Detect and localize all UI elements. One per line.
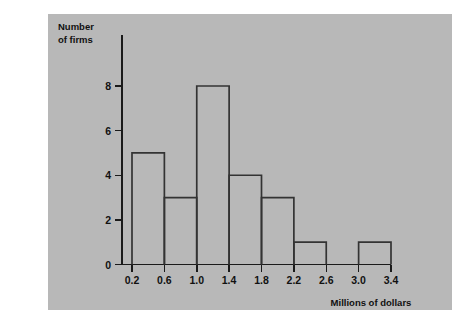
y-axis-title-line1: Number xyxy=(58,21,94,32)
histogram-chart: 0 2 4 6 8 0.2 0.6 1.0 1.4 1.8 2.2 2.6 3.… xyxy=(48,14,452,310)
x-tick-label-2-2: 2.2 xyxy=(287,274,302,286)
x-tick-label-3-0: 3.0 xyxy=(351,274,366,286)
x-tick-label-0-2: 0.2 xyxy=(125,274,140,286)
x-tick-label-1-0: 1.0 xyxy=(189,274,204,286)
y-tick-label-4: 4 xyxy=(105,169,111,181)
figure-root: 0 2 4 6 8 0.2 0.6 1.0 1.4 1.8 2.2 2.6 3.… xyxy=(0,0,463,328)
x-tick-label-3-4: 3.4 xyxy=(384,274,399,286)
x-tick-label-2-6: 2.6 xyxy=(319,274,334,286)
histogram-bar xyxy=(164,198,196,265)
y-tick-label-2: 2 xyxy=(105,214,111,226)
histogram-bar xyxy=(262,198,294,265)
y-tick-label-0: 0 xyxy=(105,259,111,271)
x-tick-label-1-4: 1.4 xyxy=(222,274,237,286)
histogram-bar xyxy=(197,86,229,265)
x-axis-title: Millions of dollars xyxy=(331,297,412,308)
histogram-bar xyxy=(359,242,391,264)
chart-panel: 0 2 4 6 8 0.2 0.6 1.0 1.4 1.8 2.2 2.6 3.… xyxy=(48,14,452,310)
histogram-bar xyxy=(229,175,261,264)
y-tick-label-6: 6 xyxy=(105,125,111,137)
x-tick-label-1-8: 1.8 xyxy=(254,274,269,286)
histogram-bar xyxy=(294,242,326,264)
y-axis-title-line2: of firms xyxy=(58,34,93,45)
histogram-bar xyxy=(132,153,164,265)
histogram-bars xyxy=(132,86,391,265)
x-tick-label-0-6: 0.6 xyxy=(157,274,172,286)
y-tick-label-8: 8 xyxy=(105,80,111,92)
